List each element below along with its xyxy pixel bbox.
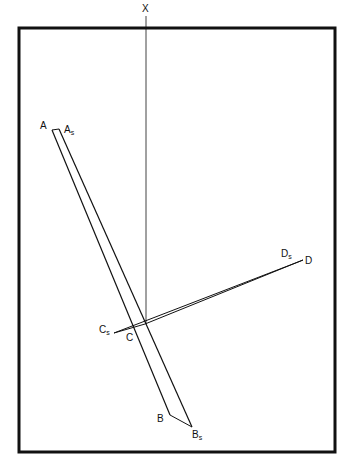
line-ab bbox=[52, 130, 170, 415]
label-as-sub: s bbox=[71, 129, 75, 136]
line-as-bs bbox=[59, 129, 192, 427]
label-d: D bbox=[305, 256, 312, 266]
label-ds-sub: s bbox=[288, 253, 292, 260]
label-bs: Bs bbox=[192, 430, 202, 441]
label-cs: Cs bbox=[99, 325, 110, 336]
label-cs-sub: s bbox=[106, 329, 110, 336]
label-b: B bbox=[157, 414, 164, 424]
diagram-canvas bbox=[0, 0, 349, 469]
label-c: C bbox=[126, 333, 133, 343]
label-as: As bbox=[64, 125, 74, 136]
label-x: X bbox=[142, 4, 149, 14]
segment-ds-d bbox=[298, 260, 303, 262]
label-bs-main: B bbox=[192, 429, 199, 440]
frame-border bbox=[19, 28, 335, 452]
label-a: A bbox=[40, 121, 47, 131]
line-cs-ds bbox=[114, 262, 298, 333]
label-as-main: A bbox=[64, 124, 71, 135]
label-ds: Ds bbox=[281, 249, 292, 260]
segment-a-as bbox=[52, 129, 59, 130]
label-bs-sub: s bbox=[199, 434, 203, 441]
